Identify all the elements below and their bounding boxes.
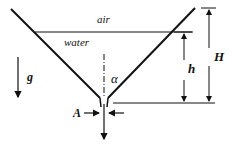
spout-right: [107, 98, 108, 107]
label-h: h: [188, 62, 195, 75]
funnel-left-wall: [11, 9, 100, 98]
label-H: H: [214, 50, 224, 63]
spout-left: [100, 98, 101, 107]
label-area: A: [73, 107, 81, 119]
label-air: air: [97, 14, 110, 25]
label-angle: α: [111, 72, 118, 85]
label-water: water: [64, 37, 89, 48]
funnel-right-wall: [108, 8, 195, 98]
label-gravity: g: [27, 71, 33, 83]
